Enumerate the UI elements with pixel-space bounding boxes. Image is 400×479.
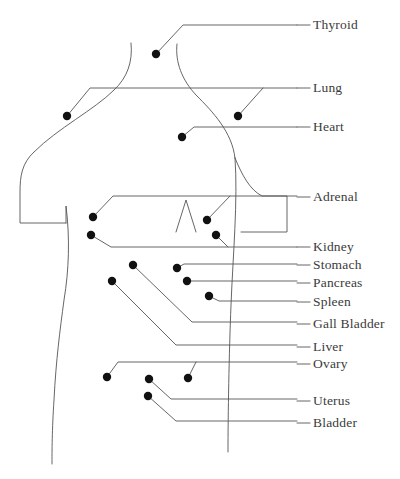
- organ-label-bladder: Bladder: [313, 416, 357, 430]
- adrenal-left-dot[interactable]: [89, 213, 97, 221]
- shoulder-left-outline: [20, 152, 66, 223]
- organ-label-spleen: Spleen: [313, 295, 351, 309]
- organ-label-uterus: Uterus: [313, 394, 350, 408]
- organ-label-stomach: Stomach: [313, 258, 362, 272]
- gall-bladder-dot[interactable]: [129, 261, 137, 269]
- kidney-left-dot[interactable]: [87, 231, 95, 239]
- leader-line-kidney-left-leader: [91, 235, 297, 247]
- leader-line-thyroid-leader: [156, 25, 297, 54]
- leader-line-lung-right-leader: [238, 88, 263, 116]
- organ-label-adrenal: Adrenal: [313, 190, 358, 204]
- pancreas-dot[interactable]: [183, 277, 191, 285]
- organ-label-pancreas: Pancreas: [313, 276, 363, 290]
- organ-label-gall-bladder: Gall Bladder: [313, 317, 385, 331]
- bladder-dot[interactable]: [144, 392, 152, 400]
- leader-line-heart-leader: [182, 127, 297, 137]
- leader-line-adrenal-right-leader: [207, 196, 230, 220]
- ovary-left-dot[interactable]: [103, 373, 111, 381]
- heart-dot[interactable]: [178, 133, 186, 141]
- organ-diagram-page: ThyroidLungHeartAdrenalKidneyStomachPanc…: [0, 0, 400, 479]
- leader-line-gall-bladder-leader: [133, 265, 297, 322]
- organ-label-lung: Lung: [313, 81, 342, 95]
- kidney-right-dot[interactable]: [212, 231, 220, 239]
- organ-label-thyroid: Thyroid: [313, 18, 358, 32]
- thyroid-dot[interactable]: [152, 50, 160, 58]
- adrenal-right-dot[interactable]: [203, 216, 211, 224]
- leader-line-liver-leader: [112, 281, 297, 345]
- leader-line-adrenal-left-leader: [93, 196, 297, 217]
- organ-label-heart: Heart: [313, 120, 344, 134]
- stomach-dot[interactable]: [173, 264, 181, 272]
- leader-line-lung-left-leader: [67, 88, 297, 116]
- organ-label-ovary: Ovary: [313, 357, 348, 371]
- lung-left-dot[interactable]: [63, 112, 71, 120]
- leader-line-bladder-leader: [148, 396, 297, 421]
- torso-right-outline: [228, 158, 236, 452]
- leader-lines: [67, 25, 310, 423]
- uterus-dot[interactable]: [145, 375, 153, 383]
- neck-right-outline: [177, 44, 235, 158]
- spleen-dot[interactable]: [205, 292, 213, 300]
- leader-line-uterus-leader: [149, 379, 297, 399]
- liver-dot[interactable]: [108, 277, 116, 285]
- torso-left-outline: [52, 206, 68, 464]
- leader-line-stomach-leader: [177, 264, 297, 268]
- leader-line-spleen-leader: [209, 296, 297, 301]
- ovary-right-dot[interactable]: [184, 374, 192, 382]
- lung-right-dot[interactable]: [234, 112, 242, 120]
- organ-label-liver: Liver: [313, 340, 343, 354]
- organ-label-kidney: Kidney: [313, 240, 354, 254]
- organ-markers: [63, 50, 242, 400]
- crotch-outline: [176, 200, 196, 232]
- leader-line-ovary-left-leader: [107, 362, 297, 377]
- arm-right-outline: [235, 158, 287, 232]
